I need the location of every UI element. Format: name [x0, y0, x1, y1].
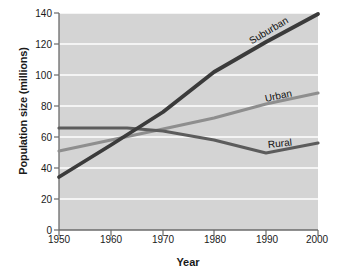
- x-tick-label-1990: 1990: [247, 234, 287, 245]
- y-tick-label: 140: [20, 8, 52, 19]
- x-tick-label-1950: 1950: [39, 234, 79, 245]
- line-chart-figure: Population size (millions) Year 140 120 …: [0, 0, 338, 278]
- plot-background: [59, 13, 318, 230]
- x-tick-label-2000: 2000: [297, 234, 337, 245]
- y-tick-label: 60: [20, 132, 52, 143]
- x-tick-label-1970: 1970: [143, 234, 183, 245]
- y-tick-label: 40: [20, 163, 52, 174]
- x-axis-title: Year: [58, 256, 318, 268]
- y-tick-label: 80: [20, 101, 52, 112]
- x-tick-label-1980: 1980: [195, 234, 235, 245]
- y-tick-label: 100: [20, 70, 52, 81]
- y-tick-label: 120: [20, 39, 52, 50]
- x-tick-label-1960: 1960: [91, 234, 131, 245]
- y-tick-label: 20: [20, 194, 52, 205]
